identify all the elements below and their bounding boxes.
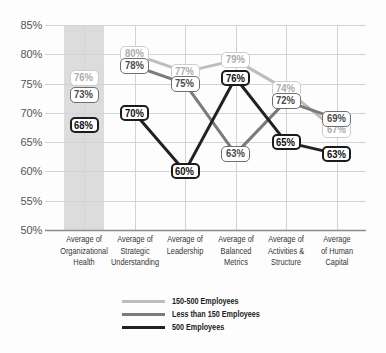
y-axis-tick-label: 55% [12, 195, 42, 207]
y-axis-tick-label: 50% [12, 224, 42, 236]
legend-swatch-less-than-150 [122, 313, 165, 316]
y-axis-tick-label: 85% [12, 19, 42, 31]
data-label-value: 79% [226, 53, 245, 66]
y-axis-tick-label: 60% [12, 165, 42, 177]
data-label-150-500: 76% [70, 70, 99, 86]
data-label-value: 63% [327, 148, 346, 160]
data-label-value: 73% [75, 88, 94, 101]
legend-label-500: 500 Employees [172, 322, 224, 332]
data-label-value: 78% [125, 59, 144, 72]
data-label-value: 63% [226, 147, 245, 160]
data-label-less-than-150: 73% [70, 87, 99, 103]
data-label-value: 65% [277, 136, 296, 148]
x-axis-category-label: Average of Human Capital [306, 234, 366, 269]
data-label-500: 68% [70, 117, 99, 133]
data-label-value: 60% [176, 165, 195, 177]
data-label-less-than-150: 78% [120, 58, 149, 74]
y-axis-tick-label: 70% [12, 107, 42, 119]
data-label-500: 65% [272, 134, 301, 150]
y-axis-tick-label: 65% [12, 136, 42, 148]
data-label-value: 76% [226, 72, 245, 84]
y-axis-tick-label: 75% [12, 78, 42, 90]
data-label-value: 72% [277, 94, 296, 107]
legend-label-less-than-150: Less than 150 Employees [172, 309, 260, 319]
data-label-500: 60% [171, 163, 200, 179]
data-label-500: 70% [120, 105, 149, 121]
data-label-500: 63% [322, 146, 351, 162]
legend-swatch-500 [122, 326, 165, 329]
line-chart: 50%55%60%65%70%75%80%85%Average of Organ… [0, 0, 386, 353]
data-label-value: 76% [75, 71, 94, 84]
data-label-value: 69% [327, 112, 346, 125]
data-label-value: 68% [75, 119, 94, 131]
y-axis-tick-label: 80% [12, 48, 42, 60]
data-label-less-than-150: 63% [221, 146, 250, 162]
data-label-value: 75% [176, 77, 195, 90]
data-label-500: 76% [221, 70, 250, 86]
data-label-less-than-150: 75% [171, 76, 200, 92]
data-label-value: 70% [125, 107, 144, 119]
legend-swatch-150-500 [122, 300, 165, 303]
data-label-less-than-150: 72% [272, 93, 301, 109]
data-label-150-500: 79% [221, 52, 250, 68]
legend-label-150-500: 150-500 Employees [172, 296, 239, 306]
data-label-less-than-150: 69% [322, 111, 351, 127]
